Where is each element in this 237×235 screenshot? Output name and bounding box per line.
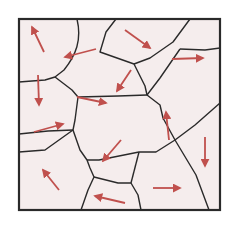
orientation-arrow-icon <box>38 75 39 105</box>
grain-diagram <box>0 0 237 235</box>
orientation-arrow-icon <box>172 58 203 59</box>
grain-field <box>19 19 220 210</box>
grain-boundary <box>180 49 205 50</box>
